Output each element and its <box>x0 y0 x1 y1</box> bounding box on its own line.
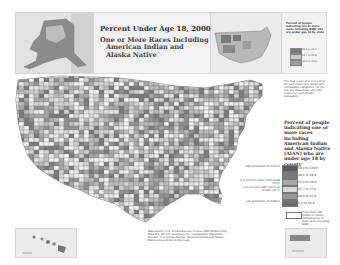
county-cell <box>259 94 264 98</box>
county-cell <box>259 174 264 178</box>
county-cell <box>204 198 209 202</box>
county-cell <box>49 138 54 142</box>
county-cell <box>69 138 74 142</box>
county-cell <box>129 94 134 98</box>
county-cell <box>29 186 34 190</box>
county-cell <box>69 186 74 190</box>
county-cell <box>119 182 124 186</box>
county-cell <box>184 206 189 210</box>
county-cell <box>109 118 114 122</box>
county-cell <box>189 118 194 122</box>
county-cell <box>219 114 224 118</box>
county-cell <box>54 114 59 118</box>
county-cell <box>219 206 224 210</box>
county-cell <box>69 190 74 194</box>
county-cell <box>104 110 109 114</box>
county-cell <box>49 114 54 118</box>
county-cell <box>94 198 99 202</box>
county-cell <box>104 190 109 194</box>
county-cell <box>184 218 189 222</box>
county-cell <box>24 78 29 82</box>
county-cell <box>244 106 249 110</box>
county-cell <box>94 90 99 94</box>
county-cell <box>124 130 129 134</box>
county-cell <box>114 82 119 86</box>
county-cell <box>69 126 74 130</box>
county-cell <box>164 114 169 118</box>
county-cell <box>214 166 219 170</box>
hawaii-inset-map <box>15 228 77 258</box>
county-cell <box>169 194 174 198</box>
county-cell <box>149 170 154 174</box>
county-cell <box>24 210 29 214</box>
county-cell <box>69 214 74 218</box>
county-cell <box>29 106 34 110</box>
county-cell <box>29 166 34 170</box>
county-cell <box>199 174 204 178</box>
legend-label: 33.9 to 39.9 <box>298 180 316 184</box>
county-cell <box>224 98 229 102</box>
county-cell <box>194 102 199 106</box>
county-cell <box>74 222 79 226</box>
county-cell <box>104 90 109 94</box>
county-cell <box>209 130 214 134</box>
county-cell <box>184 202 189 206</box>
county-cell <box>239 150 244 154</box>
county-cell <box>154 170 159 174</box>
county-cell <box>74 182 79 186</box>
county-cell <box>59 210 64 214</box>
county-cell <box>99 122 104 126</box>
county-cell <box>109 154 114 158</box>
county-cell <box>139 222 144 226</box>
county-cell <box>139 158 144 162</box>
county-cell <box>239 138 244 142</box>
county-cell <box>139 114 144 118</box>
county-cell <box>39 146 44 150</box>
county-cell <box>144 138 149 142</box>
county-cell <box>89 186 94 190</box>
county-cell <box>44 134 49 138</box>
county-cell <box>29 174 34 178</box>
county-cell <box>184 214 189 218</box>
county-cell <box>154 210 159 214</box>
county-cell <box>144 150 149 154</box>
county-cell <box>109 86 114 90</box>
county-cell <box>109 90 114 94</box>
county-cell <box>109 178 114 182</box>
county-cell <box>224 130 229 134</box>
county-cell <box>34 150 39 154</box>
county-cell <box>204 218 209 222</box>
county-cell <box>129 206 134 210</box>
county-cell <box>159 186 164 190</box>
county-cell <box>79 134 84 138</box>
county-cell <box>59 82 64 86</box>
county-cell <box>259 78 264 82</box>
county-cell <box>79 138 84 142</box>
county-cell <box>39 154 44 158</box>
county-cell <box>114 190 119 194</box>
county-cell <box>144 102 149 106</box>
county-cell <box>134 198 139 202</box>
county-cell <box>114 202 119 206</box>
county-cell <box>164 174 169 178</box>
county-cell <box>194 110 199 114</box>
county-cell <box>39 110 44 114</box>
county-cell <box>184 142 189 146</box>
county-cell <box>94 130 99 134</box>
county-cell <box>74 138 79 142</box>
county-cell <box>209 214 214 218</box>
county-cell <box>109 138 114 142</box>
county-cell <box>99 222 104 226</box>
county-cell <box>249 118 254 122</box>
county-cell <box>29 90 34 94</box>
county-cell <box>204 134 209 138</box>
county-cell <box>29 110 34 114</box>
county-cell <box>39 138 44 142</box>
county-cell <box>189 114 194 118</box>
county-cell <box>89 206 94 210</box>
county-cell <box>154 134 159 138</box>
county-cell <box>69 166 74 170</box>
county-cell <box>114 134 119 138</box>
county-cell <box>94 98 99 102</box>
county-cell <box>104 182 109 186</box>
